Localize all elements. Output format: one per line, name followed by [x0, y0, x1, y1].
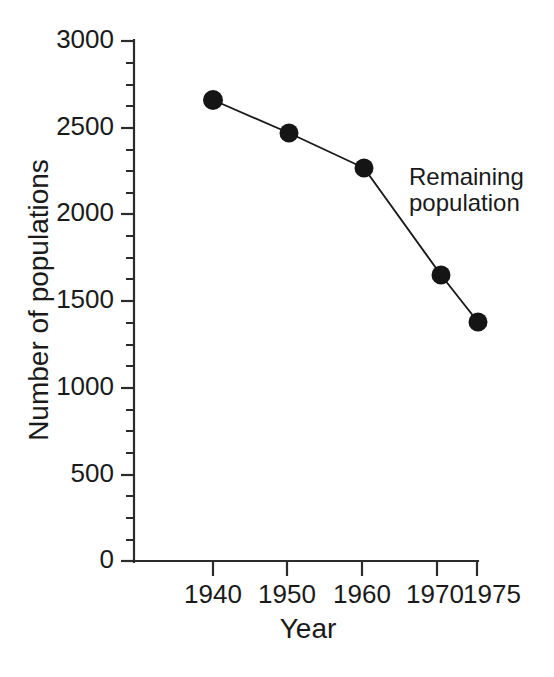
annotation-line-1: Remaining	[409, 163, 524, 190]
data-point-1951[interactable]	[280, 124, 299, 143]
y-tick-label-1000: 1000	[56, 371, 114, 401]
y-tick-label-2000: 2000	[56, 197, 114, 227]
y-tick-label-0: 0	[100, 544, 114, 574]
data-point-1975[interactable]	[469, 313, 488, 332]
y-tick-label-2500: 2500	[56, 111, 114, 141]
x-tick-label-1950: 1950	[258, 579, 316, 609]
chart-figure: 3000 2500 2000 1500 1000 500 0 Number of…	[0, 0, 554, 677]
x-tick-label-1975: 1975	[463, 579, 521, 609]
data-point-1961[interactable]	[355, 159, 374, 178]
y-tick-label-500: 500	[71, 458, 114, 488]
data-point-1971[interactable]	[432, 266, 451, 285]
x-tick-label-1970: 1970	[406, 579, 464, 609]
line-chart: 3000 2500 2000 1500 1000 500 0 Number of…	[0, 0, 554, 677]
y-axis-title: Number of populations	[23, 159, 54, 441]
x-tick-label-1940: 1940	[184, 579, 242, 609]
x-axis-title: Year	[280, 613, 337, 644]
x-axis-tick-labels: 1940 1950 1960 1970 1975	[184, 579, 521, 609]
data-point-1941[interactable]	[203, 90, 223, 110]
y-tick-label-3000: 3000	[56, 24, 114, 54]
annotation-line-2: population	[409, 189, 520, 216]
y-tick-label-1500: 1500	[56, 284, 114, 314]
remaining-population-annotation: Remaining population	[409, 163, 524, 216]
chart-background	[0, 0, 554, 677]
x-tick-label-1960: 1960	[333, 579, 391, 609]
